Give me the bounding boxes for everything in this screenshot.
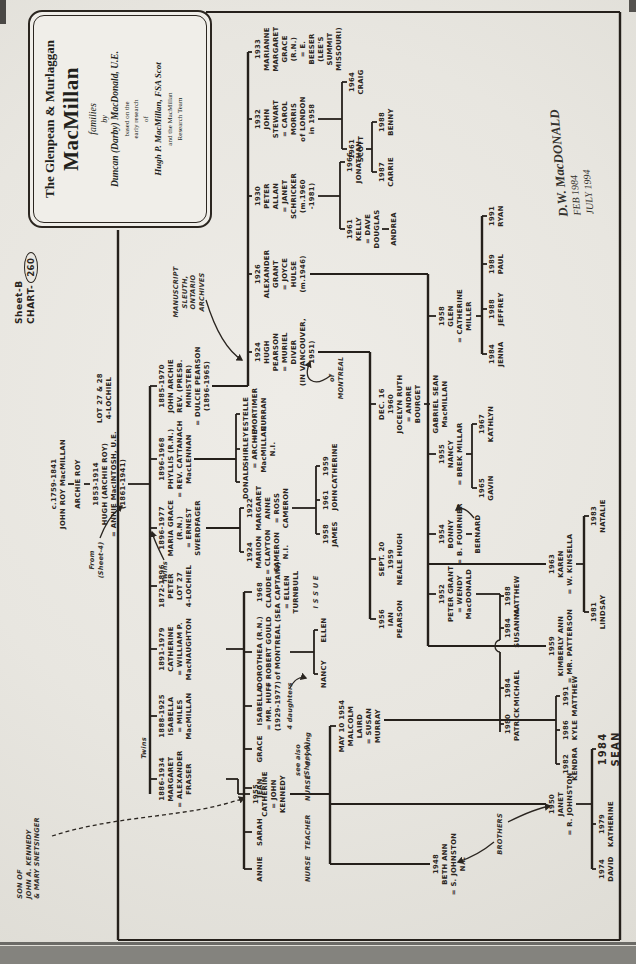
scan-corner-mark [629, 0, 636, 12]
person-hugh-pearson: 1924 HUGH PEARSON = MURIEL DIVER (IN VAN… [254, 318, 317, 386]
sheet-number: Sheet-B [14, 214, 24, 324]
person-bonny: 1954 BONNY = B. FOURNIER [438, 503, 465, 564]
person-sarah: SARAH [256, 818, 265, 846]
person-phyllis: 1896-1968 PHYLLIS (R.N.) = REV. CATTANAC… [158, 420, 194, 498]
person-grace: GRACE [256, 735, 265, 762]
person-kendra: 1982 KENDRA [562, 747, 580, 781]
person-benny: 1988 BENNY [378, 108, 396, 136]
chart-number-circled: 260 [24, 252, 38, 283]
person-catherine-cameron: 1959 CATHERINE [322, 443, 340, 488]
sheet-label: Sheet-B CHART-260 [14, 214, 38, 324]
person-dorothea: DOROTHEA (R.N.) = ROBERT GOULD of MONTRE… [256, 616, 283, 688]
scan-edge-line [0, 942, 636, 945]
annotation-twins-right: Twins [161, 561, 170, 583]
person-lindsay: 1981 LINDSAY [590, 595, 608, 630]
annotation-brothers: BROTHERS [496, 813, 505, 855]
person-kimberly: 1959 KIMBERLY ANN = MR. PATTERSON [548, 609, 575, 683]
person-bernard: BERNARD [474, 515, 483, 554]
annotation-annie: NURSE [304, 856, 313, 882]
title-families-line: The Glenpean & Murlaggan [42, 16, 58, 222]
person-katherine-j: 1979 KATHERINE [598, 801, 616, 847]
person-marianne: 1933 MARIANNE MARGARET GRACE (R.N.) = E.… [254, 25, 344, 74]
annotation-kennedy-note: SON OF JOHN A. KENNEDY & MARY SNETSINGER [16, 817, 42, 899]
person-isabella-huff: ISABELLA = MR. HUFF (1929-1977) [256, 681, 283, 731]
person-annie: ANNIE [256, 856, 265, 881]
scan-edge-band [0, 946, 636, 964]
family-tree-chart: 1886-1934 MARGARET = ALEXANDER FRASER188… [0, 0, 636, 964]
person-margaret-anne: 1922 MARGARET ANNE = ROSS CAMERON [246, 485, 291, 530]
person-craig: 1964 CRAIG [348, 69, 366, 94]
scan-corner-mark [0, 0, 6, 24]
person-janet-k: 1950 JANET = R. JOHNSTON [548, 773, 575, 836]
person-margaret: 1886-1934 MARGARET = ALEXANDER FRASER [158, 750, 194, 807]
person-andrea: ANDREA [390, 212, 399, 246]
person-malcolm: MAY 10 1954 MALCOLM LAIRD = SUSAN MURRAY [338, 700, 383, 753]
annotation-see-sheet: see also (Sheet-9) [294, 742, 311, 779]
person-marion: 1924 MARION = CLAYTON CAMERON N.I. [246, 529, 291, 575]
person-jocelyn: DEC. 16 1960 JOCELYN RUTH = ANDRE BOURGE… [378, 375, 423, 434]
ancestor-archie: ARCHIE ROY [74, 459, 83, 508]
person-maria-grace: 1896-1977 MARIA GRACE (R.N.) = ERNEST SW… [158, 500, 203, 556]
person-michael: 1984 MICHAEL [504, 670, 522, 706]
person-alexander-grant: 1926 ALEXANDER GRANT = JOYCE HULSE (m.19… [254, 250, 308, 299]
person-kathlyn: 1967 KATHLYN [478, 406, 496, 442]
person-peter-grant: 1952 PETER GRANT = WENDY MacDONALD [438, 566, 474, 622]
person-scott: 1961 SCOTT [348, 136, 366, 163]
person-sean: 1984 SEAN [596, 732, 622, 767]
person-john-cameron: 1961 JOHN [322, 490, 340, 511]
person-peter-allan: 1930 PETER ALLAN = JANET SCHRICKER (m.19… [254, 173, 317, 219]
annotation-issue: I S S U E [312, 576, 321, 609]
person-ellen-gould: ELLEN [320, 617, 329, 642]
ancestor-lot: LOT 27 & 28 4-LOCHIEL [96, 373, 114, 423]
annotation-four-daughters: 4 daughters [286, 682, 295, 729]
person-kelly: 1961 KELLY = DAVE DOUGLAS [346, 209, 382, 248]
annotation-from-sheet: From (Sheet-4) [88, 542, 105, 579]
title-surname: MacMillan [59, 16, 84, 222]
person-kyle: 1986 KYLE [562, 720, 580, 740]
title-families-word: families [87, 16, 98, 222]
person-catherine-macnaughton: 1891-1979 CATHERINE = WILLIAM P. MacNAUG… [158, 618, 194, 680]
person-paul: 1989 PAUL [488, 254, 506, 274]
person-jenna: 1984 JENNA [488, 341, 506, 366]
person-estelle: ESTELLE = MORTIMER CURRAN [242, 388, 269, 440]
person-ryan: 1991 RYAN [488, 205, 506, 226]
person-carrie: 1987 CARRIE [378, 157, 396, 187]
person-ian: 1956 IAN PEARSON [378, 600, 405, 639]
annotation-manuscript-note: MANUSCRIPT SLEUTH, ONTARIO ARCHIVES [172, 267, 206, 318]
title-author: Duncan (Darby) MacDonald, U.E. [110, 16, 120, 222]
person-jeffrey: 1988 JEFFREY [488, 292, 506, 325]
person-isabella: 1888-1925 ISABELLA = MILES MacMILLAN [158, 693, 194, 740]
person-nancy-millar: 1955 NANCY = BREK MILLAR [438, 422, 465, 485]
title-box: The Glenpean & Murlaggan MacMillan famil… [28, 10, 212, 228]
person-john-archie: 1885-1970 JOHN ARCHIE REV. (PRESB. MINIS… [158, 346, 212, 425]
person-natalie: 1983 NATALIE [590, 499, 608, 532]
person-david: 1974 DAVID [598, 856, 616, 881]
annotation-sarah: TEACHER [304, 814, 313, 849]
person-beth-ann: 1948 BETH ANN = S. JOHNSTON N.I. [432, 833, 468, 896]
person-matthew-88: 1988 MATTHEW [504, 576, 522, 617]
person-patrick: 1980 PATRICK [504, 707, 522, 741]
chart-label: CHART- [26, 285, 36, 324]
person-glen: 1958 GLEN = CATHERINE MILLER [438, 289, 474, 343]
annotation-of-montreal: of MONTREAL [328, 357, 345, 400]
annotation-jean: NURSE [304, 775, 313, 801]
person-nancy-gould: NANCY [320, 660, 329, 688]
person-john-stewart: 1932 JOHN STEWART = CAROL MORRIS of LOND… [254, 96, 317, 141]
ancestor-origin: c.1759-1841 JOHN ROY MacMILLAN [50, 439, 68, 529]
person-jean: JEAN [256, 778, 265, 797]
person-james: 1958 JAMES [322, 521, 340, 547]
annotation-twins-left: Twins [140, 737, 149, 759]
person-karen: 1963 KAREN = W. KINSELLA [548, 534, 575, 595]
title-researcher: Hugh P. MacMillan, FSA Scot [153, 16, 163, 222]
person-neale: SEPT. 20 1959 NEALE HUGH [378, 533, 405, 585]
person-gavin: 1965 GAVIN [478, 475, 496, 500]
ancestor-hugh: 1853-1914 HUGH (ARCHIE ROY) = ANNIE MacI… [92, 431, 128, 537]
